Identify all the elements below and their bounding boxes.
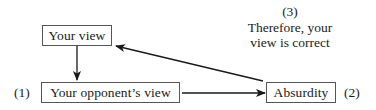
node-your-view-label: Your view (49, 28, 106, 43)
node-opponent-view: Your opponent’s view (41, 82, 180, 103)
conclusion-line-2: view is correct (232, 35, 348, 51)
step-1-label: (1) (14, 85, 30, 100)
node-absurdity-label: Absurdity (274, 85, 329, 100)
node-absurdity: Absurdity (266, 82, 336, 103)
node-your-view: Your view (42, 25, 112, 46)
conclusion-text: (3) Therefore, your view is correct (232, 4, 348, 51)
conclusion-line-1: Therefore, your (232, 20, 348, 36)
step-3-label: (3) (232, 4, 348, 20)
node-opponent-view-label: Your opponent’s view (50, 85, 171, 100)
step-2-label: (2) (344, 85, 360, 100)
arrow-absurdity-to-your-view (116, 46, 263, 81)
